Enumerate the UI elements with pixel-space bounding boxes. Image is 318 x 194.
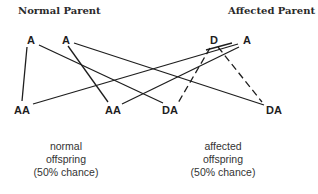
affected-parent-title: Affected Parent — [228, 5, 315, 16]
normal-parent-allele-2: A — [62, 34, 70, 46]
line-affected-a-to-aa2 — [122, 47, 239, 104]
normal-caption-line-1: normal — [34, 140, 99, 153]
normal-caption-line-2: offspring — [34, 153, 99, 166]
normal-offspring-caption: normal offspring (50% chance) — [34, 140, 99, 179]
affected-offspring-caption: affected offspring (50% chance) — [191, 140, 256, 179]
normal-parent-title: Normal Parent — [18, 5, 101, 16]
affected-caption-line-3: (50% chance) — [191, 166, 256, 179]
affected-parent-allele-a: A — [243, 34, 251, 46]
line-affected-d-to-da2 — [218, 47, 262, 102]
affected-caption-line-2: offspring — [191, 153, 256, 166]
line-normal-a1-to-aa1 — [22, 47, 27, 101]
offspring-aa-1: AA — [14, 104, 30, 116]
affected-parent-allele-d: D — [210, 34, 218, 46]
line-normal-a1-to-da1 — [39, 45, 163, 103]
offspring-da-2: DA — [266, 104, 282, 116]
normal-caption-line-3: (50% chance) — [34, 166, 99, 179]
offspring-da-1: DA — [162, 104, 178, 116]
affected-caption-line-1: affected — [191, 140, 256, 153]
normal-parent-allele-1: A — [27, 34, 35, 46]
offspring-aa-2: AA — [105, 104, 121, 116]
